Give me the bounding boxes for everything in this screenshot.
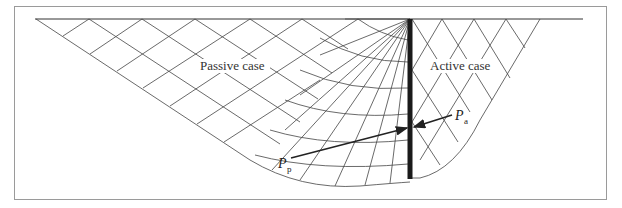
active-force-arrow xyxy=(414,115,452,127)
active-case-label: Active case xyxy=(430,58,491,73)
slip-line-diagram: Passive case Active case P p P a xyxy=(0,0,622,208)
active-slip-net xyxy=(412,19,540,178)
passive-force-arrow xyxy=(291,128,407,158)
passive-slip-net xyxy=(36,19,410,186)
active-force-subscript: a xyxy=(464,116,468,126)
passive-force-subscript: p xyxy=(287,164,292,174)
active-force-symbol: P xyxy=(454,108,464,123)
passive-case-label: Passive case xyxy=(200,58,265,73)
passive-force-symbol: P xyxy=(277,156,287,171)
